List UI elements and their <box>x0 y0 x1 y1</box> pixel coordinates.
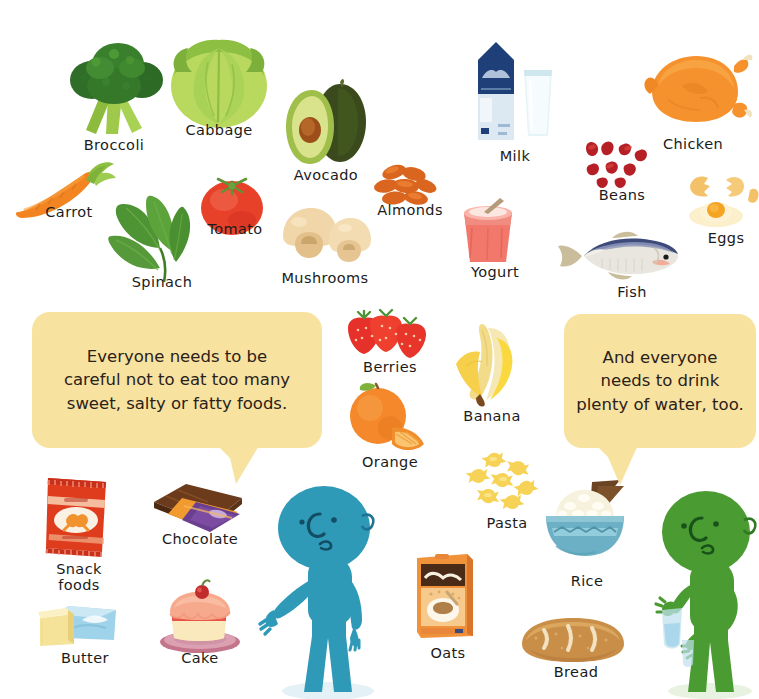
pasta-bowties-icon <box>466 452 544 514</box>
food-label-almonds: Almonds <box>362 202 458 218</box>
illustration-canvas: Broccoli Cabbage Avocado <box>0 0 759 699</box>
strawberries-icon <box>344 310 432 362</box>
food-label-chocolate: Chocolate <box>146 531 254 547</box>
green-character-figure <box>648 488 759 699</box>
food-label-cabbage: Cabbage <box>163 122 275 138</box>
eggs-icon <box>686 168 759 230</box>
food-label-pasta: Pasta <box>470 515 544 531</box>
food-label-tomato: Tomato <box>186 221 284 237</box>
oats-box-icon <box>411 548 481 640</box>
food-label-spinach: Spinach <box>108 274 216 290</box>
food-item-yogurt <box>456 196 522 264</box>
food-label-fish: Fish <box>600 284 664 300</box>
food-item-pasta <box>466 452 544 514</box>
orange-icon <box>346 382 428 454</box>
avocado-icon <box>282 78 370 168</box>
food-label-yogurt: Yogurt <box>452 264 538 280</box>
food-label-rice: Rice <box>556 573 618 589</box>
broccoli-icon <box>56 38 174 138</box>
fish-icon <box>554 226 682 284</box>
food-item-bread <box>518 614 628 664</box>
food-item-rice <box>534 478 636 562</box>
food-item-spinach <box>104 190 210 286</box>
food-item-berries <box>344 310 432 362</box>
rice-bowl-icon <box>534 478 636 562</box>
food-label-avocado: Avocado <box>272 167 380 183</box>
blue-character <box>258 486 390 699</box>
snack-bag-icon <box>40 472 114 558</box>
banana-icon <box>452 322 524 408</box>
left-bubble-text: Everyone needs to be careful not to eat … <box>64 345 290 415</box>
food-item-cake <box>156 582 244 654</box>
right-bubble-tail <box>596 445 652 487</box>
cabbage-icon <box>164 32 274 130</box>
food-label-eggs: Eggs <box>694 230 758 246</box>
roast-chicken-icon <box>638 48 750 132</box>
food-item-snack-foods <box>40 472 114 558</box>
food-item-chicken <box>638 48 750 132</box>
mushrooms-icon <box>277 202 373 266</box>
food-label-chicken: Chicken <box>642 136 744 152</box>
food-label-milk: Milk <box>480 148 550 164</box>
food-item-oats <box>411 548 481 640</box>
food-label-butter: Butter <box>44 650 126 666</box>
food-item-mushrooms <box>277 202 373 266</box>
right-bubble-text: And everyone needs to drink plenty of wa… <box>576 346 743 416</box>
food-item-milk <box>468 36 558 146</box>
food-item-broccoli <box>56 38 174 138</box>
bread-loaf-icon <box>518 614 628 664</box>
blue-character-figure <box>258 486 390 699</box>
right-speech-bubble: And everyone needs to drink plenty of wa… <box>564 314 756 448</box>
food-label-beans: Beans <box>582 187 662 203</box>
food-item-chocolate <box>152 480 244 536</box>
butter-icon <box>38 600 122 650</box>
left-bubble-tail <box>216 444 276 486</box>
yogurt-icon <box>456 196 522 264</box>
food-label-berries: Berries <box>344 359 436 375</box>
food-item-cabbage <box>164 32 274 130</box>
food-label-broccoli: Broccoli <box>58 137 170 153</box>
cake-slice-icon <box>156 582 244 654</box>
food-label-snack-foods: Snack foods <box>38 562 120 593</box>
milk-carton-icon <box>468 36 558 146</box>
food-item-banana <box>452 322 524 408</box>
green-character <box>648 488 759 699</box>
chocolate-bar-icon <box>152 480 244 536</box>
food-item-fish <box>554 226 682 284</box>
food-label-banana: Banana <box>446 408 538 424</box>
food-label-mushrooms: Mushrooms <box>264 270 386 286</box>
food-item-eggs <box>686 168 759 230</box>
food-label-oats: Oats <box>416 645 480 661</box>
food-label-orange: Orange <box>344 454 436 470</box>
food-item-orange <box>346 382 428 454</box>
food-item-butter <box>38 600 122 650</box>
food-item-avocado <box>282 78 370 168</box>
spinach-icon <box>104 190 210 286</box>
food-label-bread: Bread <box>538 664 614 680</box>
left-speech-bubble: Everyone needs to be careful not to eat … <box>32 312 322 448</box>
food-label-cake: Cake <box>164 650 236 666</box>
